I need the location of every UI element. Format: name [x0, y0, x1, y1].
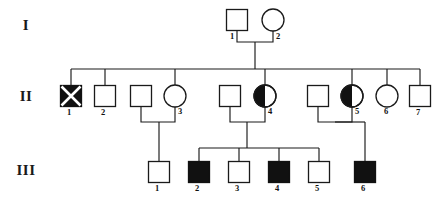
- square-filled-shape: [269, 162, 290, 183]
- individual-id: 1: [67, 107, 71, 117]
- square-open-shape: [309, 162, 330, 183]
- individual-id: 5: [355, 106, 359, 116]
- individual-id: 2: [101, 107, 105, 117]
- individual-id: 7: [416, 107, 421, 117]
- circle-open-shape: [262, 9, 284, 31]
- lineage-links-gen2: [141, 107, 365, 172]
- carrier-half-fill: [341, 85, 352, 107]
- individual-II-2[interactable]: 2: [95, 86, 116, 118]
- individual-id: 4: [275, 183, 280, 193]
- square-filled-shape: [189, 162, 210, 183]
- individual-id: 2: [276, 31, 280, 41]
- generation-label-II: II: [20, 88, 33, 104]
- individual-II-spouse-of-5[interactable]: [308, 86, 329, 107]
- generation-label-I: I: [23, 17, 29, 33]
- individual-II-6[interactable]: 6: [376, 85, 398, 116]
- individual-II-7[interactable]: 7: [410, 86, 431, 118]
- sibship-bus-gen2: [71, 69, 420, 86]
- square-open-shape: [308, 86, 329, 107]
- square-open-shape: [229, 162, 250, 183]
- individual-id: 1: [155, 183, 159, 193]
- individual-id: 2: [195, 183, 199, 193]
- individual-III-2[interactable]: 2: [189, 162, 210, 194]
- square-filled-shape: [355, 162, 376, 183]
- individual-III-1[interactable]: 1: [149, 162, 170, 194]
- generation-label-III: III: [16, 162, 35, 178]
- individual-id: 6: [384, 106, 388, 116]
- lineage-links-gen1: [237, 31, 273, 69]
- individual-III-5[interactable]: 5: [309, 162, 330, 194]
- circle-open-shape: [164, 85, 186, 107]
- individual-id: 5: [315, 183, 319, 193]
- individual-III-4[interactable]: 4: [269, 162, 290, 194]
- square-open-shape: [131, 86, 152, 107]
- individual-III-6[interactable]: 6: [355, 162, 376, 194]
- square-open-shape: [95, 86, 116, 107]
- pedigree-chart-root: I II III: [0, 0, 448, 201]
- individual-id: 6: [361, 183, 365, 193]
- square-open-shape: [227, 10, 248, 31]
- individual-id: 3: [235, 183, 239, 193]
- individual-II-1[interactable]: 1: [61, 86, 82, 118]
- pedigree-diagram: I II III: [0, 0, 448, 201]
- square-open-shape: [149, 162, 170, 183]
- individual-id: 1: [230, 31, 234, 41]
- carrier-half-fill: [254, 85, 265, 107]
- square-open-shape: [410, 86, 431, 107]
- individual-III-3[interactable]: 3: [229, 162, 250, 194]
- individual-id: 3: [178, 106, 182, 116]
- circle-open-shape: [376, 85, 398, 107]
- individual-II-spouse-of-3[interactable]: [131, 86, 152, 107]
- square-open-shape: [220, 86, 241, 107]
- individual-II-spouse-of-4[interactable]: [220, 86, 241, 107]
- individual-id: 4: [268, 106, 273, 116]
